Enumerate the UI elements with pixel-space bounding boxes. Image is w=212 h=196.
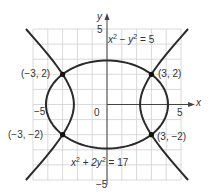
origin-label: 0: [94, 108, 100, 118]
x-max-label: 5: [177, 108, 183, 118]
y-axis-label: y: [97, 12, 102, 22]
hyperbola-equation: x2 − y2 = 5: [108, 33, 154, 45]
x-min-label: −5: [34, 107, 45, 117]
point-label-3-2: (3, 2): [158, 69, 181, 79]
point-label-neg3-neg2: (−3, −2): [8, 130, 43, 140]
y-min-label: −5: [96, 180, 107, 190]
y-max-label: 5: [97, 25, 103, 35]
x-axis-label: x: [196, 98, 201, 108]
point-label-3-neg2: (3, −2): [157, 132, 186, 142]
point-label-neg3-2: (−3, 2): [21, 69, 50, 79]
ellipse-equation: x2 + 2y2 = 17: [71, 156, 128, 168]
